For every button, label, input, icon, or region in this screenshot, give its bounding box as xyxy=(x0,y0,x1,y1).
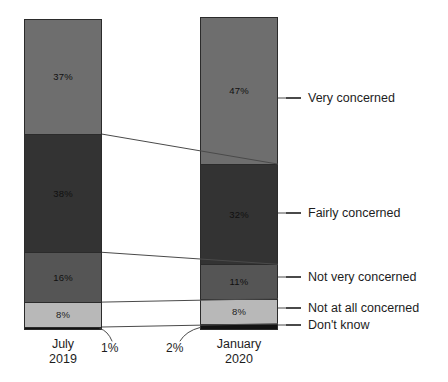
segment-value-label: 11% xyxy=(230,277,249,287)
bar-segment-july-fairly-concerned: 38% xyxy=(24,134,102,252)
segment-value-label: 8% xyxy=(232,307,246,317)
legend-label: Don't know xyxy=(308,318,369,332)
legend-dash-icon xyxy=(286,97,301,99)
bar-segment-july-not-at-all-concerned: 8% xyxy=(24,302,102,327)
segment-value-label: 32% xyxy=(229,210,249,220)
legend-label: Not at all concerned xyxy=(308,301,419,315)
bar-segment-january-very-concerned: 47% xyxy=(200,17,278,164)
legend-item-fairly-concerned: Fairly concerned xyxy=(286,206,400,220)
bar-segment-july-very-concerned: 37% xyxy=(24,19,102,134)
legend-item-very-concerned: Very concerned xyxy=(286,91,395,105)
segment-value-label: 47% xyxy=(229,86,249,96)
chart-legend: Very concerned Fairly concerned Not very… xyxy=(286,0,448,382)
segment-value-label: 8% xyxy=(56,310,70,320)
bar-segment-july-dont-know: 1% xyxy=(24,327,102,330)
segment-value-label: 38% xyxy=(53,189,73,199)
annotation-july-dont-know-value: 1% xyxy=(101,341,118,355)
legend-label: Not very concerned xyxy=(308,270,416,284)
category-label-january-2020: January 2020 xyxy=(184,337,294,367)
legend-dash-icon xyxy=(286,324,301,326)
bar-segment-july-not-very-concerned: 16% xyxy=(24,252,102,302)
segment-value-label: 16% xyxy=(53,273,73,283)
bar-segment-january-not-very-concerned: 11% xyxy=(200,264,278,298)
legend-dash-icon xyxy=(286,307,301,309)
category-label-line1: January xyxy=(217,337,261,351)
bar-january-2020: 47% 32% 11% 8% 2% xyxy=(200,17,278,330)
segment-value-label: 37% xyxy=(53,72,73,82)
bar-segment-january-not-at-all-concerned: 8% xyxy=(200,299,278,324)
legend-label: Fairly concerned xyxy=(308,206,400,220)
bar-july-2019: 37% 38% 16% 8% 1% xyxy=(24,19,102,330)
legend-dash-icon xyxy=(286,212,301,214)
legend-item-dont-know: Don't know xyxy=(286,318,369,332)
bar-segment-january-fairly-concerned: 32% xyxy=(200,164,278,264)
stacked-bar-chart: 37% 38% 16% 8% 1% 47% 32% 11% 8% 2% xyxy=(0,0,448,382)
legend-dash-icon xyxy=(286,276,301,278)
category-label-line1: July xyxy=(52,337,74,351)
bar-segment-january-dont-know: 2% xyxy=(200,324,278,330)
legend-item-not-very-concerned: Not very concerned xyxy=(286,270,416,284)
legend-label: Very concerned xyxy=(308,91,395,105)
legend-item-not-at-all-concerned: Not at all concerned xyxy=(286,301,419,315)
annotation-january-dont-know-value: 2% xyxy=(166,341,183,355)
category-label-line2: 2020 xyxy=(184,352,294,367)
